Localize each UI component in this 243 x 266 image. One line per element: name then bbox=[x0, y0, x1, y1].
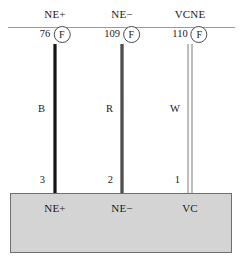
fuse-number-3: 110 bbox=[172, 29, 187, 40]
fuse-number-1: 76 bbox=[40, 29, 51, 40]
terminal-number-1: 3 bbox=[40, 175, 45, 186]
device-terminal-label-3: VC bbox=[182, 203, 198, 214]
fuse-icon-2: F bbox=[123, 26, 140, 43]
wire-code-1: B bbox=[38, 104, 45, 115]
fuse-group-2: 109 F bbox=[104, 26, 140, 43]
wire-code-3: W bbox=[170, 104, 180, 115]
circuit-label-2: NE− bbox=[111, 8, 132, 20]
conductor-white bbox=[188, 44, 193, 194]
device-terminal-label-2: NE− bbox=[111, 203, 132, 214]
fuse-icon-3: F bbox=[191, 26, 208, 43]
fuse-number-2: 109 bbox=[104, 29, 120, 40]
conductor-red bbox=[120, 44, 124, 194]
conductor-black bbox=[53, 44, 57, 194]
circuit-label-1: NE+ bbox=[44, 8, 65, 20]
wire-code-2: R bbox=[106, 104, 113, 115]
fuse-group-1: 76 F bbox=[40, 26, 71, 43]
terminal-number-3: 1 bbox=[175, 175, 180, 186]
fuse-group-3: 110 F bbox=[172, 26, 207, 43]
terminal-number-2: 2 bbox=[108, 175, 113, 186]
fuse-icon-1: F bbox=[53, 26, 70, 43]
wiring-diagram: NE+ NE− VCNE 76 F 109 F 110 F B R W 3 2 … bbox=[0, 0, 243, 266]
circuit-label-3: VCNE bbox=[175, 8, 206, 20]
device-terminal-label-1: NE+ bbox=[44, 203, 65, 214]
